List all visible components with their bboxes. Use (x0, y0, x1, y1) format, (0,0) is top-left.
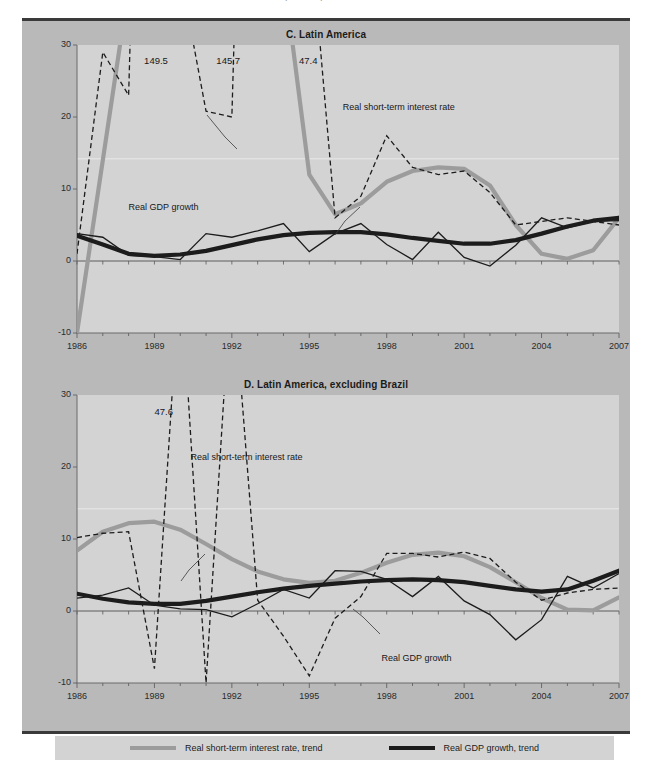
series-callout-label: Real GDP growth (382, 653, 452, 663)
cropped-header-text: (Percent) (0, 0, 653, 16)
x-axis-tick-label: 1986 (57, 691, 97, 701)
y-axis-tick-label: -10 (45, 327, 71, 337)
legend-swatch-gdp-trend-icon (389, 746, 435, 750)
panel-d-title: D. Latin America, excluding Brazil (22, 379, 630, 390)
x-axis-tick-label: 2007 (599, 691, 639, 701)
value-callout: 47.6 (154, 406, 173, 417)
panel-c-plot-area (77, 45, 619, 333)
y-axis-tick-label: 30 (45, 39, 71, 49)
value-callout: 47.4 (299, 55, 318, 66)
series-callout-label: Real GDP growth (129, 202, 199, 212)
legend-item-interest-trend: Real short-term interest rate, trend (130, 743, 323, 753)
y-axis-tick-label: 10 (45, 183, 71, 193)
y-axis-tick-label: -10 (45, 677, 71, 687)
x-axis-tick-label: 1989 (134, 341, 174, 351)
x-axis-tick-label: 2001 (444, 691, 484, 701)
panel-c-title: C. Latin America (22, 29, 630, 40)
series-callout-label: Real short-term interest rate (191, 452, 303, 462)
panel-latin-america-ex-brazil: D. Latin America, excluding Brazil -1001… (22, 371, 630, 731)
callout-leader-gdp-d (353, 609, 380, 634)
legend-item-gdp-trend: Real GDP growth, trend (389, 743, 539, 753)
y-axis-tick-label: 0 (45, 605, 71, 615)
x-axis-tick-label: 1998 (367, 691, 407, 701)
y-axis-tick-label: 10 (45, 533, 71, 543)
y-axis-tick-label: 20 (45, 111, 71, 121)
value-callout: 149.5 (144, 55, 168, 66)
series-line-real-short-term-interest-rate-trend (77, 0, 619, 333)
panel-d-plot-area (77, 395, 619, 683)
plot-svg (77, 395, 619, 723)
x-axis-tick-label: 1995 (289, 341, 329, 351)
x-axis-tick-label: 2004 (522, 691, 562, 701)
x-axis-tick-label: 1995 (289, 691, 329, 701)
x-axis-tick-label: 2001 (444, 341, 484, 351)
y-axis-tick-label: 20 (45, 461, 71, 471)
series-callout-label: Real short-term interest rate (343, 102, 455, 112)
series-line-real-gdp-growth (77, 218, 619, 266)
x-axis-tick-label: 1992 (212, 691, 252, 701)
y-axis-tick-label: 0 (45, 255, 71, 265)
callout-leader-gdp-c (207, 115, 237, 149)
x-axis-tick-label: 1998 (367, 341, 407, 351)
x-axis-tick-label: 1992 (212, 341, 252, 351)
figure-legend: Real short-term interest rate, trend Rea… (55, 736, 614, 760)
legend-label-gdp-trend: Real GDP growth, trend (444, 743, 539, 753)
callout-leader-interest-d (181, 554, 205, 581)
x-axis-tick-label: 1989 (134, 691, 174, 701)
figure-frame: C. Latin America -1001020301986198919921… (22, 18, 630, 734)
legend-swatch-interest-trend-icon (130, 746, 176, 750)
legend-label-interest-trend: Real short-term interest rate, trend (185, 743, 323, 753)
x-axis-tick-label: 2004 (522, 341, 562, 351)
y-axis-tick-label: 30 (45, 389, 71, 399)
panel-latin-america: C. Latin America -1001020301986198919921… (22, 21, 630, 371)
cropped-header-label: (Percent) (284, 0, 324, 1)
value-callout: 145.7 (216, 55, 240, 66)
x-axis-tick-label: 2007 (599, 341, 639, 351)
x-axis-tick-label: 1986 (57, 341, 97, 351)
